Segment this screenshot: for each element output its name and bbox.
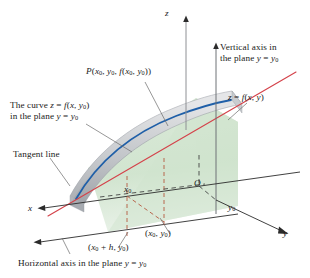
label-vertical-axis-line1: Vertical axis in xyxy=(220,42,277,52)
label-x0-plus-h-y0: (x0 + h, y0) xyxy=(88,242,129,253)
label-curve-note: The curve z = f(x, y0) in the plane y = … xyxy=(10,100,89,122)
label-origin: O xyxy=(194,178,201,189)
label-axis-x: x xyxy=(28,203,32,214)
calculus-figure: The curve z = f(x, y0) in the plane y = … xyxy=(0,0,310,278)
label-x0-y0: (x0, y0) xyxy=(145,228,171,239)
label-point-p: P(x0, y0, f(x0, y0)) xyxy=(86,66,151,77)
label-y0: y0 xyxy=(228,202,235,213)
axis-y xyxy=(216,200,289,234)
label-horizontal-axis-caption: Horizontal axis in the plane y = y0 xyxy=(18,258,146,269)
label-tangent-line: Tangent line xyxy=(13,149,60,160)
label-x0: x0 xyxy=(124,184,131,195)
label-axis-z: z xyxy=(165,8,169,19)
label-vertical-axis-line2: the plane y = y0 xyxy=(220,53,278,63)
label-vertical-axis: Vertical axis in the plane y = y0 xyxy=(220,42,278,64)
label-axis-y: y xyxy=(283,228,287,239)
label-curve-note-line1: The curve z = f(x, y0) xyxy=(10,100,89,110)
label-curve-note-line2: in the plane y = y0 xyxy=(10,111,78,121)
label-surface-equation: z = f(x, y) xyxy=(228,92,264,103)
